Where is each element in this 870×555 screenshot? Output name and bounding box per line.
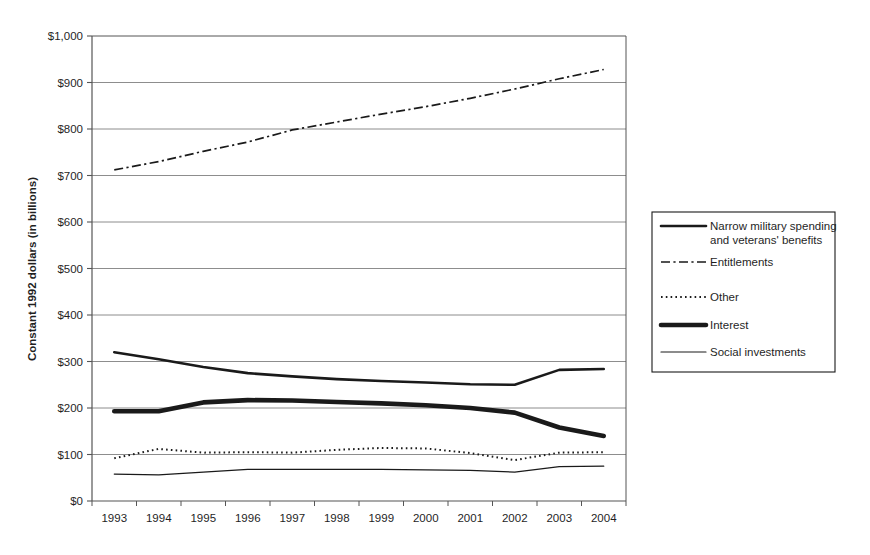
x-tick-label: 2002 bbox=[502, 512, 528, 524]
x-tick-label: 1995 bbox=[190, 512, 216, 524]
chart-figure: Constant 1992 dollars (in billions) $0$1… bbox=[0, 0, 870, 555]
x-tick-label: 1998 bbox=[324, 512, 350, 524]
y-tick-label: $800 bbox=[57, 123, 83, 135]
legend-label[interactable]: Social investments bbox=[710, 346, 806, 358]
y-tick-label: $300 bbox=[57, 356, 83, 368]
x-tick-label: 2000 bbox=[413, 512, 439, 524]
x-tick-label: 2001 bbox=[457, 512, 483, 524]
legend-label[interactable]: Other bbox=[710, 291, 739, 303]
x-tick-label: 1994 bbox=[146, 512, 172, 524]
y-tick-label: $700 bbox=[57, 170, 83, 182]
y-tick-label: $900 bbox=[57, 77, 83, 89]
y-tick-label: $600 bbox=[57, 216, 83, 228]
y-tick-label: $1,000 bbox=[48, 30, 83, 42]
x-tick-label: 1996 bbox=[235, 512, 261, 524]
y-tick-label: $100 bbox=[57, 449, 83, 461]
y-tick-label: $0 bbox=[70, 495, 83, 507]
x-tick-label: 2003 bbox=[546, 512, 572, 524]
legend-label[interactable]: Narrow military spending bbox=[710, 220, 837, 232]
line-chart-svg: Constant 1992 dollars (in billions) $0$1… bbox=[0, 0, 870, 555]
legend-label-continued: and veterans' benefits bbox=[710, 234, 822, 246]
x-tick-label: 1999 bbox=[368, 512, 394, 524]
x-tick-label: 2004 bbox=[591, 512, 617, 524]
legend-label[interactable]: Entitlements bbox=[710, 256, 774, 268]
y-tick-label: $400 bbox=[57, 309, 83, 321]
y-axis-title: Constant 1992 dollars (in billions) bbox=[26, 177, 38, 361]
legend-label[interactable]: Interest bbox=[710, 319, 749, 331]
x-tick-label: 1997 bbox=[279, 512, 305, 524]
x-tick-label: 1993 bbox=[101, 512, 127, 524]
y-tick-label: $200 bbox=[57, 402, 83, 414]
y-tick-label: $500 bbox=[57, 263, 83, 275]
